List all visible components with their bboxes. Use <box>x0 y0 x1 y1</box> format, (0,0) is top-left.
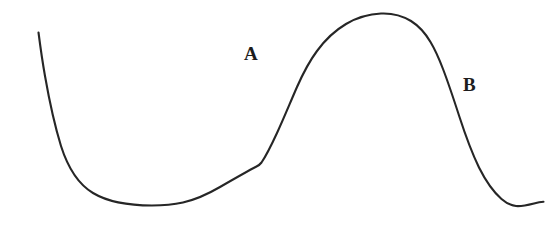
curve-point-label-a: A <box>244 44 258 63</box>
plot-background <box>0 0 558 226</box>
figure-canvas: A B <box>0 0 558 226</box>
curve-plot <box>0 0 558 226</box>
curve-point-label-b: B <box>463 75 476 94</box>
